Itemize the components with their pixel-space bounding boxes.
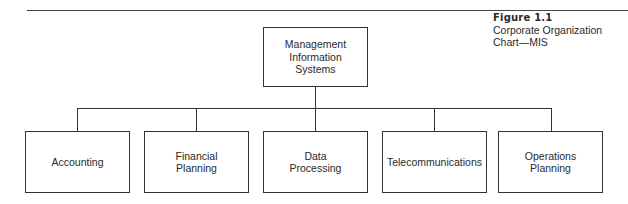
figure-title: Corporate Organization Chart—MIS [493,24,628,48]
node-financial-planning: Financial Planning [144,131,249,193]
connector-operations-planning [551,108,552,131]
node-telecommunications: Telecommunications [382,131,487,193]
node-accounting: Accounting [25,131,130,193]
connector-telecommunications [434,108,435,131]
node-management-information-systems: Management Information Systems [263,27,368,87]
node-operations-planning: Operations Planning [498,131,603,193]
figure-caption: Figure 1.1 Corporate Organization Chart—… [493,12,628,48]
connector-accounting [77,108,78,131]
connector-root-down [315,87,316,108]
connector-financial-planning [196,108,197,131]
top-rule [27,10,628,11]
node-data-processing: Data Processing [263,131,368,193]
figure-number: Figure 1.1 [493,12,628,24]
connector-data-processing [315,108,316,131]
